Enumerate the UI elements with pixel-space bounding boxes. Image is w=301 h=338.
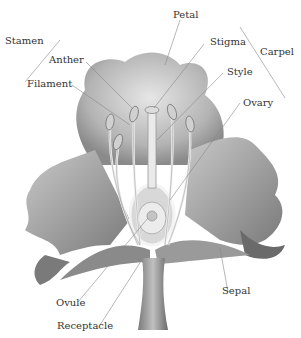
petal-left — [25, 150, 130, 255]
label-receptacle: Receptacle — [57, 321, 113, 331]
label-filament: Filament — [27, 79, 72, 89]
petal-right — [185, 137, 282, 245]
stem — [138, 258, 168, 330]
label-carpel: Carpel — [260, 47, 294, 57]
label-style: Style — [227, 67, 253, 77]
label-anther: Anther — [49, 55, 84, 65]
label-sepal: Sepal — [222, 286, 250, 296]
flower-diagram: Stamen Anther Filament Petal Stigma Carp… — [0, 0, 301, 338]
label-ovary: Ovary — [243, 98, 273, 108]
label-stigma: Stigma — [210, 37, 246, 47]
label-stamen: Stamen — [5, 36, 44, 46]
label-ovule: Ovule — [56, 298, 85, 308]
style — [148, 112, 156, 188]
label-petal: Petal — [173, 10, 198, 20]
stigma — [145, 107, 159, 114]
ovule — [147, 211, 157, 221]
flower-illustration — [0, 0, 301, 338]
